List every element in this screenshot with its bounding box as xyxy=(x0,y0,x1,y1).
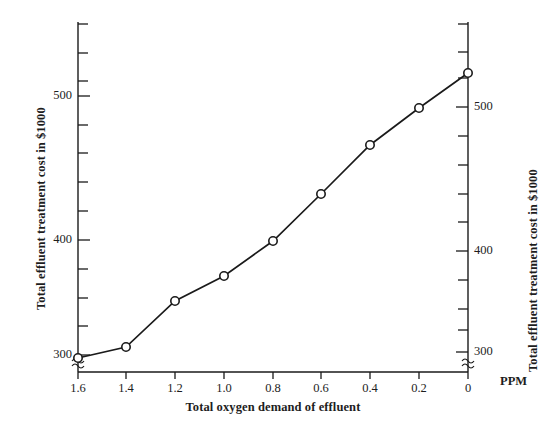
data-point xyxy=(74,354,82,362)
x-tick-label-2: 1.4 xyxy=(102,381,150,396)
data-point xyxy=(220,272,228,280)
x-tick-label-3: 1.2 xyxy=(151,381,199,396)
y-tick-label-right-400: 400 xyxy=(474,243,518,258)
y-axis-title-right: Total effluent treatment cost in $1000 xyxy=(526,169,541,372)
x-tick-label-1: 1.6 xyxy=(54,381,102,396)
data-point xyxy=(171,297,179,305)
y-tick-label-left-300: 300 xyxy=(28,347,72,362)
chart-figure: 500 400 300 500 400 300 1.6 1.4 1.2 1.0 … xyxy=(0,0,546,439)
x-tick-label-7: 0.4 xyxy=(346,381,394,396)
y-tick-label-right-500: 500 xyxy=(474,99,518,114)
x-tick-label-5: 0.8 xyxy=(249,381,297,396)
x-tick-label-6: 0.6 xyxy=(297,381,345,396)
y-axis-title-left: Total effluent treatment cost in $1000 xyxy=(34,107,49,310)
line-chart-plot xyxy=(0,0,546,439)
x-axis-unit-label: PPM xyxy=(500,374,527,389)
data-point xyxy=(415,104,423,112)
data-point xyxy=(269,237,277,245)
data-point xyxy=(366,141,374,149)
x-axis-ticks xyxy=(78,372,468,379)
y-tick-label-right-300: 300 xyxy=(474,344,518,359)
series-line xyxy=(78,73,468,358)
x-tick-label-9: 0 xyxy=(444,381,492,396)
y-tick-label-left-500: 500 xyxy=(28,88,72,103)
data-point xyxy=(317,190,325,198)
data-point xyxy=(464,69,472,77)
x-tick-label-4: 1.0 xyxy=(200,381,248,396)
x-axis-title: Total oxygen demand of effluent xyxy=(0,400,546,415)
x-tick-label-8: 0.2 xyxy=(395,381,443,396)
y-axis-left-ticks xyxy=(78,24,90,355)
data-point xyxy=(122,343,130,351)
